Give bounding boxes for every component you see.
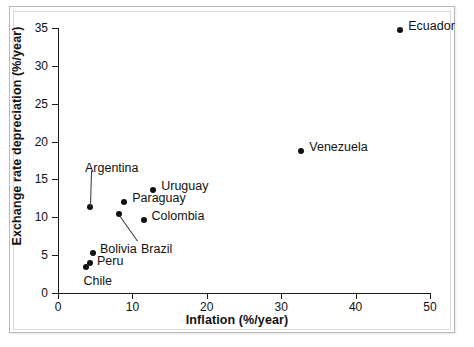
x-tick-label: 50 [423,301,436,313]
x-tick-label: 40 [349,301,362,313]
x-axis-title: Inflation (%/year) [0,313,474,327]
data-point-paraguay[interactable] [121,199,127,205]
leader-line-brazil [118,214,138,242]
y-tick-label: 30 [24,60,48,72]
y-tick [52,217,58,218]
data-label-ecuador: Ecuador [408,20,455,33]
y-tick [52,255,58,256]
y-tick-label: 25 [24,98,48,110]
data-label-peru: Peru [97,255,123,268]
data-label-colombia: Colombia [152,210,205,223]
y-tick [52,66,58,67]
data-point-bolivia[interactable] [90,250,96,256]
y-tick [52,142,58,143]
y-tick-label: 10 [24,211,48,223]
data-label-argentina: Argentina [85,162,139,175]
plot-area: 05101520253035 01020304050 EcuadorVenezu… [58,28,430,293]
x-tick-label: 10 [126,301,139,313]
data-point-venezuela[interactable] [298,148,304,154]
y-tick-label: 0 [24,287,48,299]
x-tick [356,293,357,299]
y-tick-label: 35 [24,22,48,34]
data-label-brazil: Brazil [141,243,172,256]
y-axis-line [58,28,59,294]
y-axis-title: Exchange rate depreciation (%/year) [10,0,24,282]
figure-scatter-inflation-vs-depreciation: 05101520253035 01020304050 EcuadorVenezu… [0,0,474,347]
data-point-colombia[interactable] [141,217,147,223]
x-tick [207,293,208,299]
x-tick [58,293,59,299]
x-tick [430,293,431,299]
data-label-venezuela: Venezuela [309,141,367,154]
x-tick-label: 0 [55,301,62,313]
data-point-ecuador[interactable] [397,27,403,33]
x-axis-line [58,293,431,294]
data-label-paraguay: Paraguay [132,192,186,205]
y-tick-label: 5 [24,249,48,261]
x-tick [132,293,133,299]
y-tick [52,28,58,29]
y-tick [52,179,58,180]
leader-line-argentina [90,171,92,207]
x-tick-label: 20 [200,301,213,313]
y-tick [52,104,58,105]
y-tick-label: 20 [24,136,48,148]
x-tick [281,293,282,299]
data-point-chile[interactable] [83,264,89,270]
x-tick-label: 30 [275,301,288,313]
data-label-chile: Chile [84,275,113,288]
y-tick-label: 15 [24,173,48,185]
